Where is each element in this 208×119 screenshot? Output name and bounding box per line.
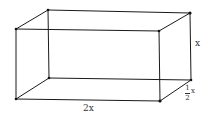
vertex-back-bottom-right <box>190 79 193 82</box>
edge-front-top <box>16 29 159 31</box>
vertex-front-bottom-left <box>15 98 18 101</box>
depth-variable: x <box>191 87 195 95</box>
depth-label: 1 2 x <box>185 85 195 102</box>
edge-back-top <box>48 10 190 13</box>
front-face <box>16 29 160 101</box>
depth-fraction: 1 2 <box>185 85 190 102</box>
edge-depth-top-left <box>16 10 48 29</box>
edge-back-bottom <box>49 78 191 80</box>
box-diagram <box>0 0 208 119</box>
depth-edges <box>16 10 191 101</box>
depth-numerator: 1 <box>185 85 189 92</box>
edge-back-left <box>48 10 49 78</box>
edge-front-bottom <box>16 99 160 101</box>
height-label: x <box>195 39 200 48</box>
edge-depth-bottom-left <box>16 78 49 99</box>
back-face <box>48 10 191 80</box>
length-label: 2x <box>83 104 94 113</box>
vertex-front-top-left <box>15 28 18 31</box>
edge-back-right <box>190 13 191 80</box>
vertex-back-bottom-left <box>48 77 51 80</box>
vertex-front-top-right <box>158 30 161 33</box>
edge-depth-top-right <box>159 13 190 31</box>
vertices <box>15 9 193 103</box>
vertex-back-top-left <box>47 9 50 12</box>
vertex-back-top-right <box>188 11 191 14</box>
depth-denominator: 2 <box>185 95 189 102</box>
vertex-front-bottom-right <box>158 99 161 102</box>
edge-front-right <box>159 31 160 101</box>
